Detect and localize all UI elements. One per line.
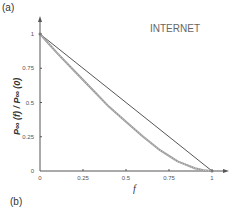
x-axis-label: f: [133, 183, 137, 194]
series-line-reference: [40, 34, 212, 171]
y-tick-label: 0.75: [22, 65, 34, 71]
x-axis-arrow-icon: [223, 169, 229, 173]
y-tick-label: 0: [31, 168, 35, 174]
y-axis-label: P∞ (f) / P∞ (0): [12, 78, 22, 135]
series: [39, 33, 214, 173]
y-tick-label: 1: [31, 31, 35, 37]
x-tick-label: 0: [38, 175, 42, 181]
y-tick-label: 0.5: [26, 100, 35, 106]
x-tick-label: 0.75: [163, 175, 175, 181]
axes: [38, 16, 229, 173]
x-tick-label: 1: [210, 175, 214, 181]
chart: 00.250.50.751 00.250.50.751 INTERNET f P…: [0, 0, 240, 212]
x-tick-label: 0.5: [122, 175, 131, 181]
y-ticks: 00.250.50.751: [22, 31, 42, 174]
y-axis-arrow-icon: [38, 16, 42, 22]
x-tick-label: 0.25: [77, 175, 89, 181]
chart-title: INTERNET: [150, 23, 200, 34]
y-tick-label: 0.25: [22, 134, 34, 140]
